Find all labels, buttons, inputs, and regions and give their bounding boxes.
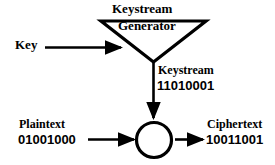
xor-combiner-shape [137, 123, 172, 158]
keystream-generator-heading: Keystream [112, 2, 172, 16]
keystream-bits-value: 11010001 [157, 79, 214, 93]
plaintext-label: Plaintext [19, 118, 65, 131]
ciphertext-label: Ciphertext [207, 118, 262, 131]
keystream-label: Keystream [158, 64, 214, 77]
key-label: Key [15, 38, 37, 52]
plaintext-bits-value: 01001000 [18, 133, 76, 147]
stream-cipher-diagram: Keystream Generator Key Keystream 110100… [0, 0, 275, 165]
keystream-generator-label: Generator [118, 19, 176, 33]
ciphertext-bits-value: 10011001 [206, 133, 263, 147]
